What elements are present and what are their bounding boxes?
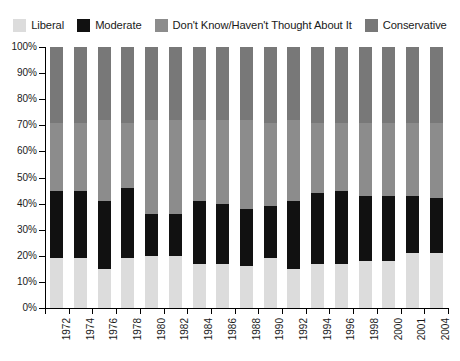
bar-segment[interactable] [145,120,158,214]
legend-item[interactable]: Moderate [77,19,141,32]
y-axis-tick-label: 0% [3,302,37,313]
bar-segment[interactable] [406,253,419,308]
bar-segment[interactable] [287,120,300,201]
bar-segment[interactable] [193,120,206,201]
bar-segment[interactable] [121,47,134,123]
bar-segment[interactable] [287,201,300,269]
x-axis-tick-label: 1992 [298,318,309,340]
bar-segment[interactable] [193,47,206,120]
stacked-bar[interactable] [264,47,277,308]
bar-segment[interactable] [406,196,419,253]
stacked-bar[interactable] [74,47,87,308]
bar-segment[interactable] [216,47,229,120]
stacked-bar[interactable] [311,47,324,308]
stacked-bar[interactable] [50,47,63,308]
stacked-bar[interactable] [335,47,348,308]
bar-segment[interactable] [193,264,206,308]
bar-segment[interactable] [193,201,206,264]
bar-segment[interactable] [121,258,134,308]
bar-segment[interactable] [169,256,182,308]
legend-item[interactable]: Liberal [13,19,64,32]
bar-segment[interactable] [382,196,395,261]
bar-segment[interactable] [430,198,443,253]
y-axis-tick-label: 70% [3,119,37,130]
bar-segment[interactable] [145,214,158,256]
stacked-bar[interactable] [145,47,158,308]
bar-segment[interactable] [430,47,443,123]
bar-segment[interactable] [430,123,443,199]
stacked-bar[interactable] [382,47,395,308]
bar-segment[interactable] [240,120,253,209]
bar-segment[interactable] [335,123,348,191]
x-axis-tick-label: 1988 [251,318,262,340]
bar-segment[interactable] [311,264,324,308]
legend-swatch-icon [13,19,26,32]
bar-segment[interactable] [382,123,395,196]
x-axis-tick-mark [164,308,165,314]
bar-segment[interactable] [382,261,395,308]
bar-segment[interactable] [169,120,182,214]
bar-segment[interactable] [98,201,111,269]
bar-segment[interactable] [264,206,277,258]
stacked-bar[interactable] [240,47,253,308]
bar-segment[interactable] [216,204,229,264]
bar-segment[interactable] [121,188,134,258]
bar-segment[interactable] [335,191,348,264]
stacked-bar[interactable] [193,47,206,308]
bar-segment[interactable] [406,123,419,196]
bar-segment[interactable] [311,193,324,263]
bar-segment[interactable] [169,214,182,256]
x-axis-tick-label: 1996 [345,318,356,340]
bar-segment[interactable] [287,269,300,308]
bar-segment[interactable] [74,123,87,191]
stacked-bar[interactable] [430,47,443,308]
bar-segment[interactable] [98,269,111,308]
stacked-bar[interactable] [98,47,111,308]
stacked-bar[interactable] [169,47,182,308]
bar-segment[interactable] [240,209,253,266]
bar-segment[interactable] [216,264,229,308]
x-axis-tick-label: 2004 [440,318,451,340]
stacked-bar[interactable] [121,47,134,308]
bar-segment[interactable] [264,47,277,123]
stacked-bar[interactable] [406,47,419,308]
bar-segment[interactable] [169,47,182,120]
bar-segment[interactable] [216,120,229,204]
bar-segment[interactable] [359,196,372,261]
bar-segment[interactable] [430,253,443,308]
bar-segment[interactable] [382,47,395,123]
bar-segment[interactable] [74,191,87,259]
bar-segment[interactable] [335,264,348,308]
legend-item[interactable]: Conservative [365,19,447,32]
bar-segment[interactable] [406,47,419,123]
bar-segment[interactable] [335,47,348,123]
bar-segment[interactable] [121,123,134,188]
legend-item[interactable]: Don't Know/Haven't Thought About It [155,19,352,32]
bar-segment[interactable] [50,191,63,259]
bar-segment[interactable] [145,47,158,120]
bar-segment[interactable] [98,120,111,201]
bar-segment[interactable] [240,266,253,308]
bar-segment[interactable] [359,123,372,196]
bar-segment[interactable] [311,123,324,193]
bar-segment[interactable] [145,256,158,308]
bar-segment[interactable] [74,258,87,308]
y-axis-tick-label: 50% [3,172,37,183]
bar-segment[interactable] [311,47,324,123]
bar-segment[interactable] [264,123,277,207]
stacked-bar[interactable] [216,47,229,308]
y-axis-tick-label: 20% [3,250,37,261]
bar-segment[interactable] [50,47,63,123]
bar-segment[interactable] [240,47,253,120]
bar-segment[interactable] [74,47,87,123]
bar-segment[interactable] [359,47,372,123]
x-axis-line [45,308,449,309]
stacked-bar[interactable] [359,47,372,308]
bar-segment[interactable] [359,261,372,308]
bar-segment[interactable] [50,258,63,308]
bar-segment[interactable] [264,258,277,308]
bar-segment[interactable] [98,47,111,120]
bar-segment[interactable] [50,123,63,191]
stacked-bar[interactable] [287,47,300,308]
bar-segment[interactable] [287,47,300,120]
